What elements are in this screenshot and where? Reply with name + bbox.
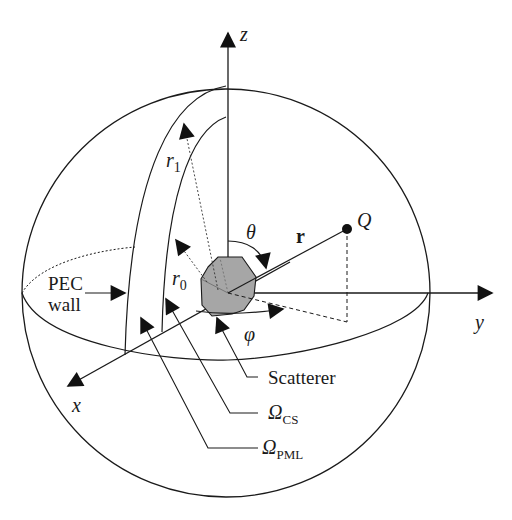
scatterer-label: Scatterer <box>268 368 336 387</box>
x-axis-label: x <box>72 395 81 415</box>
r0-label: r0 <box>172 268 187 293</box>
r-vector-label: r <box>296 226 305 246</box>
omega-cs-label: ΩCS <box>268 402 298 426</box>
theta-label: θ <box>246 222 256 242</box>
pec-wall-label: PEC wall <box>48 273 83 315</box>
r1-label: r1 <box>166 150 181 175</box>
scatterer-shape <box>201 257 256 316</box>
omega-pml-label: ΩPML <box>262 437 303 461</box>
omega-pml-leader <box>143 323 258 448</box>
diagram-graphics <box>0 0 512 520</box>
point-q-label: Q <box>357 210 371 230</box>
phi-label: φ <box>244 324 255 344</box>
y-axis-label: y <box>475 312 484 332</box>
z-axis-label: z <box>240 24 248 44</box>
pml-sphere-diagram: z y x θ φ r Q r1 r0 PEC wall Scatterer Ω… <box>0 0 512 520</box>
r1-radius <box>184 124 218 290</box>
